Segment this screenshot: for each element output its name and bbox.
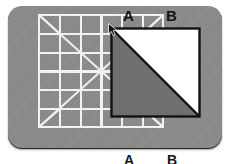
label-b-bottom: B bbox=[167, 153, 177, 164]
label-a-top: A bbox=[123, 8, 134, 23]
screenshot-stage: A B A B bbox=[0, 0, 228, 164]
label-a-bottom: A bbox=[124, 153, 134, 164]
label-b-top: B bbox=[166, 8, 177, 23]
split-square-figure[interactable] bbox=[110, 27, 201, 118]
